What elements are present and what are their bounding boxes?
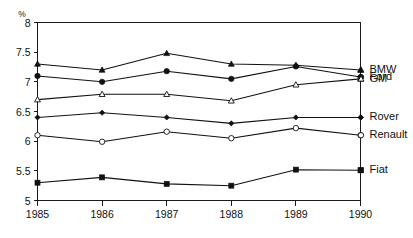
data-point-marker bbox=[293, 64, 298, 69]
y-tick-label: 7.5 bbox=[16, 46, 31, 58]
data-point-marker bbox=[164, 181, 169, 186]
legend-label: GM bbox=[370, 72, 388, 84]
data-point-marker bbox=[35, 73, 40, 78]
data-point-marker bbox=[358, 133, 363, 138]
chart-canvas: % 55.566.577.58 198519861987198819891990… bbox=[0, 0, 413, 238]
legend-label: Renault bbox=[370, 128, 408, 140]
data-point-marker bbox=[99, 79, 104, 84]
data-point-marker bbox=[359, 168, 364, 173]
y-tick-label: 6.5 bbox=[16, 106, 31, 118]
data-point-marker bbox=[164, 68, 169, 73]
data-point-marker bbox=[164, 129, 169, 134]
x-tick-label: 1989 bbox=[284, 208, 308, 220]
y-tick-label: 8 bbox=[25, 17, 31, 29]
x-tick-label: 1990 bbox=[349, 208, 373, 220]
data-point-marker bbox=[293, 167, 298, 172]
data-point-marker bbox=[229, 76, 234, 81]
x-tick-label: 1985 bbox=[26, 208, 50, 220]
data-point-marker bbox=[35, 180, 40, 185]
legend-label: Fiat bbox=[370, 163, 388, 175]
x-tick-label: 1987 bbox=[155, 208, 179, 220]
legend-label: Rover bbox=[370, 110, 400, 122]
x-tick-label: 1986 bbox=[90, 208, 114, 220]
y-tick-label: 7 bbox=[25, 76, 31, 88]
chart-background bbox=[0, 0, 413, 238]
data-point-marker bbox=[293, 125, 298, 130]
data-point-marker bbox=[229, 183, 234, 188]
y-tick-label: 6 bbox=[25, 135, 31, 147]
data-point-marker bbox=[229, 136, 234, 141]
x-tick-label: 1988 bbox=[220, 208, 244, 220]
line-chart-figure: % 55.566.577.58 198519861987198819891990… bbox=[0, 0, 413, 238]
y-tick-label: 5.5 bbox=[16, 165, 31, 177]
data-point-marker bbox=[35, 133, 40, 138]
data-point-marker bbox=[100, 175, 105, 180]
data-point-marker bbox=[99, 139, 104, 144]
y-tick-label: 5 bbox=[25, 195, 31, 207]
